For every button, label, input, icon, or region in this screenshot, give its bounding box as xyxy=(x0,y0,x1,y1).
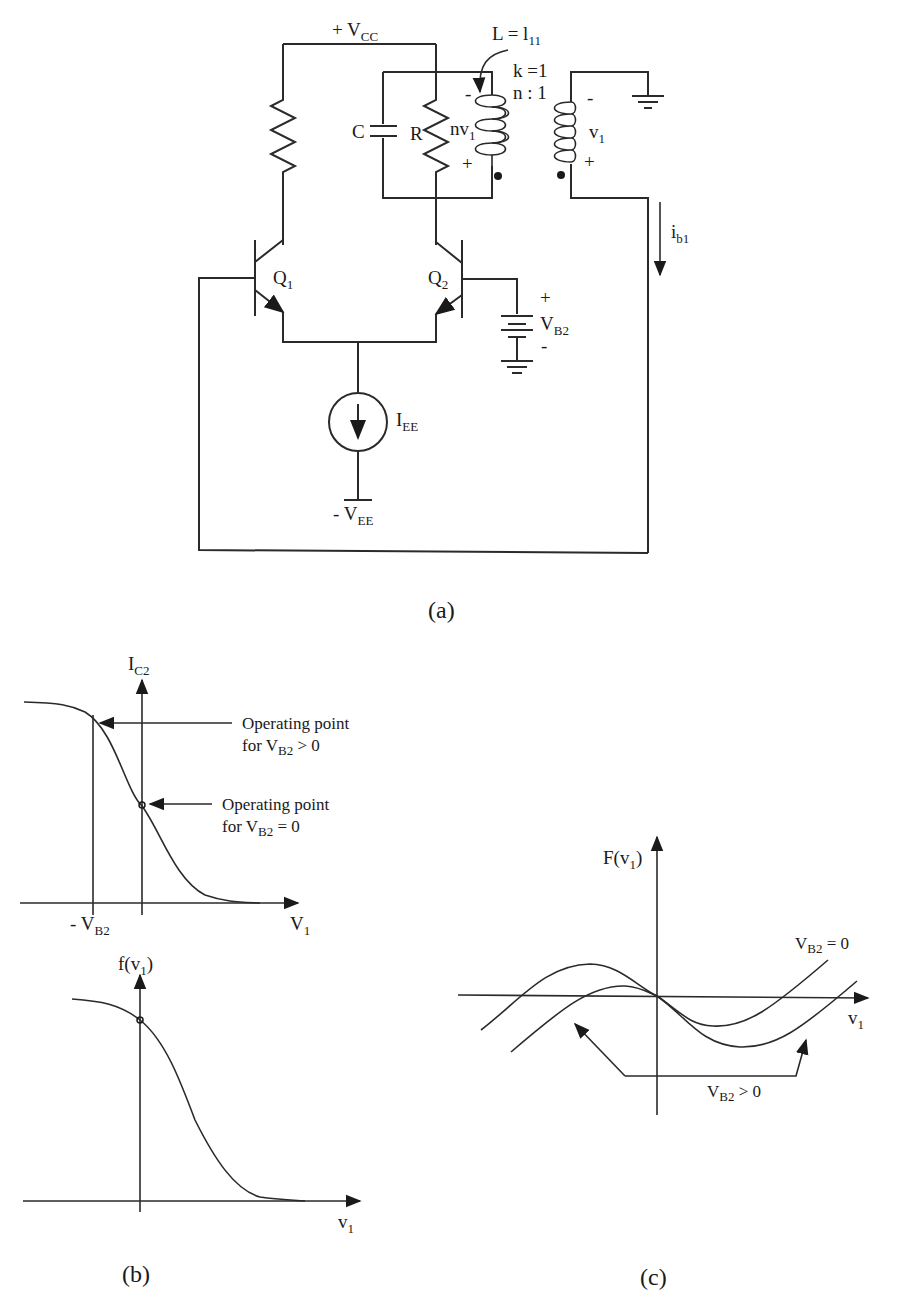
plot-f-v1: f(v1) v1 (b) xyxy=(23,953,360,1287)
primary-plus: + xyxy=(462,153,473,174)
turns-ratio-label: n : 1 xyxy=(513,82,547,103)
annotation-1-line2: for VB2 > 0 xyxy=(242,736,320,758)
load-resistor-left xyxy=(271,44,295,245)
vb2-plus: + xyxy=(540,287,551,308)
primary-voltage-label: nv1 xyxy=(450,118,476,143)
F-xlabel: v1 xyxy=(848,1007,864,1032)
curve-label-vb2-positive: VB2 > 0 xyxy=(707,1082,761,1104)
pointer-arrow-left xyxy=(575,1024,625,1076)
secondary-coil xyxy=(555,102,576,162)
annotation-2-line1: Operating point xyxy=(222,795,329,814)
base-current-label: ib1 xyxy=(671,221,689,246)
emitter-tail-wire xyxy=(283,312,436,342)
vb2-top-wire xyxy=(462,279,517,314)
plot-F-v1: F(v1) v1 VB2 = 0 VB2 > 0 (c) xyxy=(458,837,868,1290)
figure-canvas: + VCC R C - + nv1 L = l11 k =1 n : 1 - +… xyxy=(0,0,898,1308)
vee-label: - VEE xyxy=(333,503,373,528)
caption-b: (b) xyxy=(122,1261,150,1287)
vb2-minus: - xyxy=(541,335,547,356)
tank-resistor xyxy=(424,44,448,245)
resistor-label: R xyxy=(410,123,423,144)
secondary-bottom-wire xyxy=(571,164,648,553)
ic2-xlabel: V1 xyxy=(290,913,310,938)
feedback-loop-wire xyxy=(199,278,648,553)
secondary-plus: + xyxy=(584,151,595,172)
primary-coil-loops xyxy=(492,95,506,155)
vcc-label: + VCC xyxy=(332,19,378,44)
q2-emitter xyxy=(436,295,462,314)
annotation-2-line2: for VB2 = 0 xyxy=(222,817,300,839)
inductance-label: L = l11 xyxy=(492,23,541,48)
f-xlabel: v1 xyxy=(338,1211,354,1236)
q1-emitter xyxy=(255,290,283,312)
curve-label-vb2-zero: VB2 = 0 xyxy=(795,934,849,956)
plot-ic2: IC2 V1 - VB2 Operating point for VB2 > 0… xyxy=(20,653,349,938)
capacitor-plates xyxy=(370,126,397,136)
ic2-ylabel: IC2 xyxy=(128,653,150,678)
F-ylabel: F(v1) xyxy=(603,847,642,872)
current-source-label: IEE xyxy=(396,409,418,434)
caption-c: (c) xyxy=(640,1264,667,1290)
secondary-voltage-label: v1 xyxy=(589,121,605,146)
annotation-1-line1: Operating point xyxy=(242,714,349,733)
tank-top-wire xyxy=(383,72,492,95)
pointer-arrow-right xyxy=(625,1040,806,1076)
ground-symbol-secondary xyxy=(632,96,664,108)
primary-dot xyxy=(494,172,502,180)
q2-label: Q2 xyxy=(428,267,448,292)
capacitor-label: C xyxy=(352,121,365,142)
caption-a: (a) xyxy=(428,597,455,623)
secondary-top-wire xyxy=(571,72,648,102)
primary-minus: - xyxy=(465,83,471,104)
circuit-schematic: + VCC R C - + nv1 L = l11 k =1 n : 1 - +… xyxy=(199,19,689,623)
q1-label: Q1 xyxy=(273,267,293,292)
vb2-battery xyxy=(501,316,533,337)
secondary-dot xyxy=(557,171,565,179)
secondary-minus: - xyxy=(587,87,593,108)
f-ylabel: f(v1) xyxy=(118,953,153,978)
vb2-tick-label: - VB2 xyxy=(70,913,110,938)
f-curve xyxy=(72,999,305,1201)
coupling-label: k =1 xyxy=(513,60,547,81)
q2-collector xyxy=(436,242,462,263)
q1-collector xyxy=(255,240,283,262)
ground-symbol-vb2 xyxy=(501,361,533,373)
